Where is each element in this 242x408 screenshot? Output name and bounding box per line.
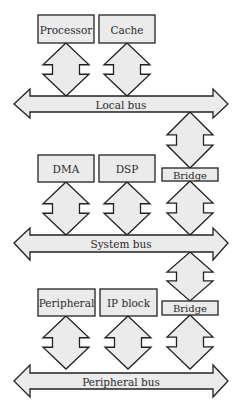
dma-label: DMA	[53, 163, 80, 175]
peripheral-bus: Peripheral bus	[14, 365, 228, 397]
bridge-2-block: Bridge	[162, 301, 218, 315]
processor-label: Processor	[40, 24, 94, 36]
bridge-1-block: Bridge	[162, 168, 218, 181]
ip-block-block: IP block	[100, 289, 157, 316]
peripheral-block: Peripheral	[38, 289, 95, 316]
dsp-label: DSP	[116, 163, 139, 175]
local-bus: Local bus	[14, 89, 228, 118]
system-bus: System bus	[14, 228, 228, 260]
peripheral-to-peripheral-bus-arrow	[43, 316, 89, 369]
dsp-block: DSP	[99, 155, 155, 182]
system-bus-label: System bus	[90, 238, 151, 250]
peripheral-bus-label: Peripheral bus	[82, 376, 160, 388]
processor-to-local-bus-arrow	[43, 43, 89, 96]
system-bus-to-bridge-2-arrow	[167, 252, 213, 301]
connectors-layer	[43, 43, 213, 369]
dsp-to-system-bus-arrow	[104, 182, 150, 235]
dma-block: DMA	[38, 155, 94, 182]
local-bus-label: Local bus	[95, 99, 146, 111]
bridge-2-to-peripheral-bus-arrow	[167, 315, 213, 369]
bridge-1-to-system-bus-arrow	[167, 181, 213, 235]
bridge-2-label: Bridge	[173, 303, 207, 314]
cache-to-local-bus-arrow	[104, 43, 150, 96]
cache-label: Cache	[110, 24, 143, 36]
cache-block: Cache	[99, 15, 155, 43]
bridge-1-label: Bridge	[173, 170, 207, 181]
processor-block: Processor	[38, 15, 94, 43]
local-bus-to-bridge-1-arrow	[167, 112, 213, 168]
dma-to-system-bus-arrow	[43, 182, 89, 235]
peripheral-label: Peripheral	[39, 297, 95, 309]
ip-block-to-peripheral-bus-arrow	[105, 316, 151, 369]
bus-architecture-diagram: Local busSystem busPeripheral bus Proces…	[0, 0, 242, 408]
ip-block-label: IP block	[107, 297, 151, 309]
